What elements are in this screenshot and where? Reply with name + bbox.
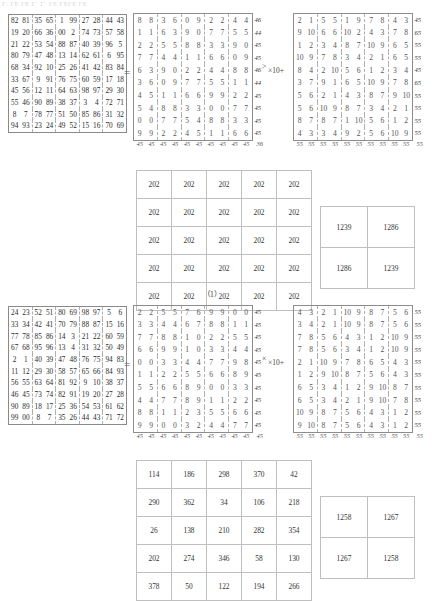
matrix-cell: 81 — [20, 15, 32, 27]
row-sum: 45 — [252, 419, 268, 432]
col-sum: 45 — [217, 140, 229, 149]
matrix-cell: 362 — [172, 489, 207, 517]
matrix-cell: 3 — [67, 330, 79, 342]
matrix-cell: 202 — [137, 255, 172, 283]
matrix-cell: 68 — [20, 342, 32, 354]
matrix-cell: 21 — [79, 330, 91, 342]
matrix-cell: 5 — [103, 307, 115, 319]
col-sum: 55 — [305, 432, 317, 441]
matrix-cell: 5 — [115, 38, 127, 50]
matrix-cell: 7 — [20, 109, 32, 121]
matrix-cell: 52 — [67, 120, 79, 132]
matrix-cell: 76 — [79, 354, 91, 366]
col-sum: 45 — [157, 140, 169, 149]
matrix-cell: 98 — [79, 307, 91, 319]
matrix-cell: 28 — [115, 389, 127, 401]
matrix-cell: 31 — [79, 342, 91, 354]
matrix-cell: 202 — [277, 255, 312, 283]
matrix-cell: 122 — [207, 573, 242, 601]
matrix-cell: 202 — [137, 227, 172, 255]
col-sum: 55 — [294, 432, 305, 441]
matrix-cell: 92 — [67, 377, 79, 389]
matrix-cell: 68 — [9, 62, 21, 74]
matrix-cell: 12 — [32, 85, 44, 97]
matrix-cell: 38 — [103, 377, 115, 389]
matrix-cell: 19 — [9, 27, 21, 39]
matrix-cell: 79 — [20, 50, 32, 62]
block1-tens-bracket — [293, 13, 413, 141]
row-sum: 45 — [252, 39, 268, 52]
matrix-cell: 9 — [79, 377, 91, 389]
matrix-cell: 70 — [103, 120, 115, 132]
row-sum: 55 — [412, 115, 428, 128]
table-row: 12581267 — [321, 497, 415, 538]
row-sum: 46 — [252, 14, 268, 27]
matrix-cell: 20 — [91, 389, 103, 401]
matrix-cell: 91 — [44, 73, 56, 85]
matrix-cell: 49 — [115, 342, 127, 354]
matrix-cell: 45 — [20, 389, 32, 401]
matrix-cell: 54 — [44, 38, 56, 50]
block2-times-symbol: × — [262, 354, 266, 363]
col-sum: 45 — [145, 432, 157, 441]
row-sum: 45 — [252, 102, 268, 115]
row-sum: 44 — [252, 27, 268, 40]
table-row: 20227434658130 — [137, 545, 312, 573]
matrix-cell: 00 — [56, 27, 68, 39]
matrix-cell: 88 — [56, 38, 68, 50]
matrix-cell: 26 — [67, 412, 79, 424]
matrix-cell: 65 — [79, 365, 91, 377]
table-row: 202202202202202 — [137, 199, 312, 227]
matrix-cell: 6 — [103, 50, 115, 62]
block1-pair-matrix: 1239128612861239 — [320, 206, 415, 289]
block2-units-bracket — [133, 305, 253, 433]
matrix-cell: 69 — [115, 120, 127, 132]
matrix-cell: 79 — [67, 319, 79, 331]
matrix-cell: 56 — [9, 377, 21, 389]
matrix-cell: 8 — [32, 412, 44, 424]
col-sum: 55 — [389, 432, 401, 441]
matrix-cell: 202 — [137, 545, 172, 573]
matrix-cell: 40 — [79, 38, 91, 50]
matrix-cell: 10 — [44, 62, 56, 74]
matrix-cell: 97 — [91, 307, 103, 319]
block2-tens-bracket — [293, 305, 413, 433]
matrix-cell: 44 — [103, 15, 115, 27]
matrix-cell: 1 — [56, 15, 68, 27]
matrix-cell: 60 — [79, 73, 91, 85]
matrix-cell: 30 — [115, 85, 127, 97]
matrix-cell: 58 — [115, 27, 127, 39]
matrix-cell: 218 — [277, 489, 312, 517]
matrix-cell: 1 — [20, 354, 32, 366]
matrix-cell: 42 — [277, 461, 312, 489]
matrix-cell: 94 — [103, 354, 115, 366]
matrix-cell: 62 — [79, 50, 91, 62]
matrix-cell: 282 — [242, 517, 277, 545]
matrix-cell: 354 — [277, 517, 312, 545]
matrix-cell: 29 — [103, 85, 115, 97]
matrix-cell: 77 — [44, 109, 56, 121]
table-row: 37850122194266 — [137, 573, 312, 601]
matrix-cell: 58 — [242, 545, 277, 573]
matrix-cell: 202 — [277, 171, 312, 199]
table-row: 68349210252641428384 — [9, 62, 127, 74]
matrix-cell: 85 — [79, 109, 91, 121]
block2-equals: = — [124, 358, 130, 370]
matrix-cell: 40 — [32, 354, 44, 366]
table-row: 90891817253654536162 — [9, 401, 127, 413]
matrix-cell: 202 — [207, 199, 242, 227]
block2-result-matrix: 1141862983704229036234106218261382102823… — [136, 460, 312, 601]
matrix-cell: 63 — [32, 377, 44, 389]
matrix-cell: 27 — [79, 15, 91, 27]
matrix-cell: 57 — [67, 365, 79, 377]
matrix-cell: 98 — [79, 85, 91, 97]
matrix-cell: 60 — [103, 330, 115, 342]
matrix-cell: 50 — [103, 342, 115, 354]
matrix-cell: 81 — [56, 377, 68, 389]
block1-source-matrix: 8281356519927284443192066360027473575821… — [8, 14, 127, 133]
table-row: 5655636481929103837 — [9, 377, 127, 389]
matrix-cell: 29 — [32, 365, 44, 377]
block1-gt-symbol: > — [262, 62, 266, 71]
matrix-cell: 33 — [9, 73, 21, 85]
col-sum: 55 — [294, 140, 305, 149]
